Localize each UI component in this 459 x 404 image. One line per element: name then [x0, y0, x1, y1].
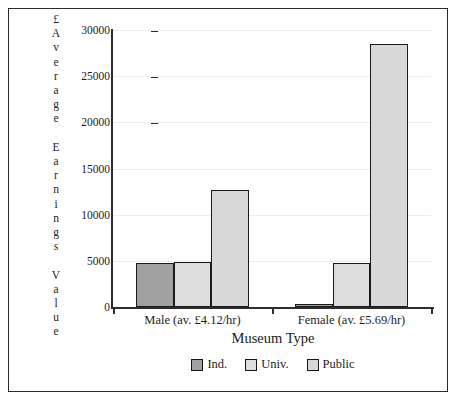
- legend-swatch: [245, 359, 257, 371]
- legend-swatch: [191, 359, 203, 371]
- gridline: [113, 30, 431, 31]
- bar: [333, 263, 371, 307]
- y-axis-tick-labels: 050001000015000200002500030000: [46, 0, 110, 404]
- y-axis-tick-label: 30000: [52, 24, 110, 36]
- x-axis-tick-mark: [431, 307, 433, 314]
- y-axis-tick-label: 25000: [52, 70, 110, 82]
- y-axis-tick-label: 20000: [52, 116, 110, 128]
- x-axis-category-label: Female (av. £5.69/hr): [272, 313, 431, 328]
- bar: [211, 190, 249, 307]
- bar: [174, 262, 212, 307]
- bar: [370, 44, 408, 307]
- bar: [295, 304, 333, 307]
- y-axis-tick-label: 0: [52, 301, 110, 313]
- legend-label: Univ.: [261, 357, 288, 372]
- y-axis-tick-label: 10000: [52, 209, 110, 221]
- legend-item: Public: [307, 357, 355, 372]
- chart-legend: Ind.Univ.Public: [113, 357, 433, 372]
- legend-label: Public: [323, 357, 355, 372]
- x-axis-category-label: Male (av. £4.12/hr): [113, 313, 272, 328]
- legend-swatch: [307, 359, 319, 371]
- y-axis-tick-label: 15000: [52, 163, 110, 175]
- legend-label: Ind.: [207, 357, 227, 372]
- legend-item: Univ.: [245, 357, 288, 372]
- bar: [136, 263, 174, 307]
- plot-area: [113, 30, 431, 307]
- chart-page: £Average Earnings Value 0500010000150002…: [0, 0, 459, 404]
- legend-item: Ind.: [191, 357, 227, 372]
- x-axis-title: Museum Type: [113, 330, 433, 347]
- y-axis-tick-label: 5000: [52, 255, 110, 267]
